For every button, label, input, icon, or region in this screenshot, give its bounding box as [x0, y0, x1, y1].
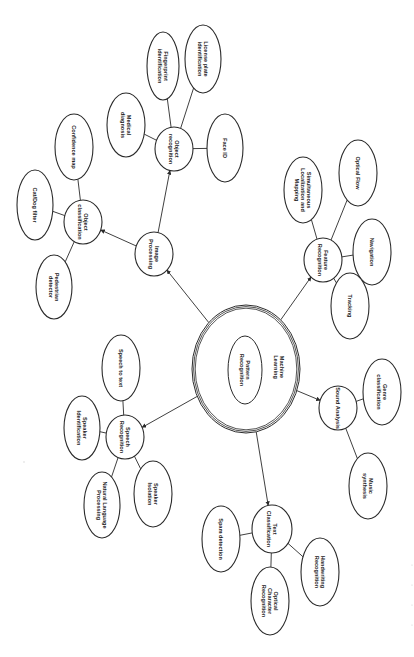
- node-face-id: Face ID: [207, 114, 243, 182]
- node-text-classification: TextClassification: [252, 505, 292, 553]
- edge-sp-to-siso: [134, 456, 140, 469]
- edge-sp-to-nlp: [112, 458, 119, 478]
- node-feature-recognition: FeatureRecognition: [304, 238, 342, 282]
- machine-learning-label: MachineLearning: [273, 355, 285, 379]
- node-optical-character-recognition: OpticalCharacterRecognition: [251, 567, 289, 635]
- edge-snd-to-music: [346, 428, 358, 459]
- edge-feat-to-flow: [331, 200, 347, 240]
- node-sound-analysis: Sound Analysis: [319, 386, 357, 430]
- node-label: Optical Flow: [355, 156, 361, 190]
- node-speaker-identification: SpeakerIdentification: [64, 396, 100, 460]
- edge-txt-to-hw: [288, 543, 303, 556]
- node-spam-detection: Spam detection: [202, 506, 240, 572]
- node-music-synthesis: Musicsynthesis: [349, 453, 387, 519]
- node-license-plate-identification: License plateidentification: [185, 25, 221, 93]
- node-label: License plateidentification: [197, 41, 209, 77]
- node-handwriting-recognition: HandwritingRecognition: [301, 538, 339, 606]
- edge-snd-to-genre: [356, 399, 363, 402]
- node-confidence-map: Confidence map: [55, 114, 93, 180]
- node-pedestrian-detector: Pedestriandetector: [36, 255, 72, 319]
- node-label: Tracking: [347, 294, 353, 318]
- node-fingerprint-identification: Fingerprintidentification: [147, 32, 179, 100]
- node-navigation: Navigation: [353, 219, 391, 285]
- node-object-recognition: Objectrecognition: [155, 127, 193, 171]
- node-object-classification: Objectclassification: [64, 200, 102, 244]
- node-label: Medicaldiagnosis: [120, 112, 132, 138]
- edge-txt-to-spam: [240, 533, 252, 535]
- edge-ml-to-feat: [281, 277, 311, 320]
- node-optical-flow: Optical Flow: [339, 140, 377, 206]
- edge-img-to-orec: [158, 171, 170, 233]
- edge-ml-to-snd: [297, 391, 320, 401]
- edge-sp-to-stt: [123, 401, 124, 415]
- edge-orec-to-med: [144, 134, 156, 140]
- node-label: Cat/Dog filter: [32, 187, 38, 223]
- node-label: Speech to text: [118, 349, 124, 387]
- node-image-processing: ImageProcessing: [135, 232, 173, 276]
- node-medical-diagnosis: Medicaldiagnosis: [107, 93, 145, 157]
- node-speech-to-text: Speech to text: [102, 335, 140, 401]
- edge-orec-to-lp: [181, 88, 194, 128]
- node-label: Sound Analysis: [335, 387, 341, 429]
- node-label: Navigation: [369, 238, 375, 267]
- center-node-machine-learning: PatternRecognition MachineLearning: [192, 305, 300, 433]
- node-label: Confidence map: [71, 125, 77, 169]
- node-label: Pedestriandetector: [48, 273, 60, 302]
- edge-feat-to-nav: [342, 255, 353, 257]
- node-simultaneous-localization-and-mapping: SimultaneousLocalization andMapping: [284, 157, 322, 223]
- edge-ml-to-sp: [142, 396, 197, 427]
- node-natural-language-processing: Natural LanguageProcessing: [84, 472, 120, 538]
- edge-orec-to-fp: [167, 99, 171, 128]
- node-speech-recognition: SpeechRecognition: [106, 415, 144, 459]
- mind-map-diagram: PatternRecognition MachineLearning Image…: [0, 0, 414, 657]
- node-label: Spam detection: [218, 518, 224, 560]
- edge-sp-to-sid: [100, 432, 106, 433]
- edge-ocls-to-conf: [78, 179, 81, 200]
- node-label: Fingerprintidentification: [157, 49, 169, 84]
- node-genre-classification: Genreclassification: [363, 359, 401, 425]
- edge-feat-to-slam: [311, 220, 317, 240]
- edge-ocls-to-cat: [53, 211, 65, 215]
- edge-feat-to-trk: [334, 278, 337, 283]
- edge-ml-to-txt: [256, 432, 268, 506]
- node-label: SpeakerIsolation: [147, 483, 159, 507]
- node-speaker-isolation: SpeakerIsolation: [134, 461, 172, 527]
- node-cat-dog-filter: Cat/Dog filter: [17, 170, 53, 240]
- edge-ml-to-img: [167, 270, 209, 323]
- edge-ocls-to-ped: [65, 242, 74, 262]
- node-label: Face ID: [222, 138, 228, 158]
- edge-img-to-ocls: [101, 230, 137, 246]
- node-tracking: Tracking: [331, 273, 369, 339]
- node-label: HandwritingRecognition: [314, 556, 326, 589]
